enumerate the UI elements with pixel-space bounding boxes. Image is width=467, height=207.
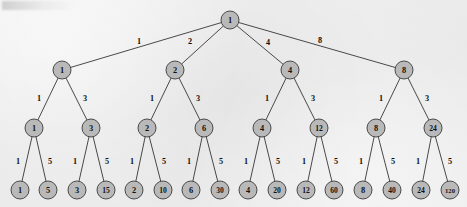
- tree-node-label: 2: [132, 186, 136, 195]
- tree-leaf-node: 2: [125, 181, 143, 199]
- tree-node-label: 20: [273, 186, 281, 195]
- tree-edge-label: 3: [425, 94, 429, 103]
- tree-edge: [378, 137, 390, 182]
- tree-node-label: 30: [216, 186, 224, 195]
- tree-edge-label: 1: [302, 157, 306, 166]
- tree-node-label: 8: [361, 186, 365, 195]
- tree-edge: [149, 137, 161, 182]
- tree-node-label: 5: [46, 186, 50, 195]
- tree-leaf-node: 3: [68, 181, 86, 199]
- tree-leaf-node: 60: [325, 181, 343, 199]
- tree-edge-label: 1: [187, 157, 191, 166]
- tree-edge: [423, 137, 432, 181]
- tree-node-label: 2: [173, 66, 177, 75]
- tree-leaf-node: 30: [211, 181, 229, 199]
- tree-edge-label: 1: [150, 94, 154, 103]
- tree-node: 4: [281, 61, 299, 79]
- tree-edge-labels-group: 1248131313131515151515151515: [16, 36, 452, 166]
- tree-edge-label: 1: [37, 94, 41, 103]
- tree-leaf-node: 4: [239, 181, 257, 199]
- tree-edge-label: 2: [188, 37, 192, 46]
- tree-edge: [136, 137, 145, 181]
- tree-node-label: 12: [302, 186, 310, 195]
- tree-node-label: 3: [89, 124, 93, 133]
- tree-edge: [308, 137, 317, 181]
- tree-node-label: 1: [32, 124, 36, 133]
- tree-edge: [250, 137, 260, 181]
- tree-edge-label: 1: [244, 157, 248, 166]
- tree-edge: [206, 137, 218, 182]
- tree-edge: [79, 137, 89, 181]
- tree-edge-label: 1: [379, 94, 383, 103]
- tree-node-label: 6: [189, 186, 193, 195]
- tree-leaf-node: 20: [268, 181, 286, 199]
- tree-node-label: 1: [60, 66, 64, 75]
- tree-node: 1: [25, 119, 43, 137]
- tree-node-label: 8: [374, 124, 378, 133]
- tree-edge-label: 3: [83, 94, 87, 103]
- tree-node-label: 40: [388, 186, 396, 195]
- tree-edge-label: 3: [196, 94, 200, 103]
- tree-node: 24: [424, 119, 442, 137]
- tree-node-label: 12: [315, 124, 323, 133]
- tree-leaf-node: 15: [97, 181, 115, 199]
- tree-node-label: 10: [159, 186, 167, 195]
- tree-edge-label: 1: [130, 157, 134, 166]
- tree-edge: [71, 23, 222, 68]
- tree-node: 6: [195, 119, 213, 137]
- tree-edge-label: 5: [162, 157, 166, 166]
- tree-node: 4: [253, 119, 271, 137]
- tree-node-label: 2: [145, 124, 149, 133]
- tree-leaf-node: 5: [39, 181, 57, 199]
- tree-node-label: 8: [402, 66, 406, 75]
- tree-node-label: 120: [445, 187, 456, 194]
- tree-leaf-node: 6: [182, 181, 200, 199]
- tree-edge: [239, 22, 396, 67]
- tree-edge-label: 3: [311, 94, 315, 103]
- tree-edge-label: 1: [73, 157, 77, 166]
- tree-leaf-node: 40: [383, 181, 401, 199]
- tree-edge-label: 4: [266, 38, 270, 47]
- tree-edge: [365, 137, 374, 181]
- tree-edge-label: 1: [265, 94, 269, 103]
- tree-edge: [321, 137, 332, 182]
- tree-leaf-node: 8: [354, 181, 372, 199]
- tree-edge: [264, 137, 275, 182]
- tree-edge: [36, 137, 46, 181]
- tree-edge-label: 1: [137, 37, 141, 46]
- tree-edge-label: 5: [448, 157, 452, 166]
- tree-edge: [22, 137, 32, 181]
- tree-diagram-canvas: 1248131313131515151515151515 11248132641…: [0, 0, 467, 207]
- tree-node-label: 3: [75, 186, 79, 195]
- tree-edge-label: 1: [359, 157, 363, 166]
- tree-node-label: 6: [202, 124, 206, 133]
- tree-node-label: 1: [18, 186, 22, 195]
- tree-edge: [93, 137, 104, 182]
- tree-node-label: 24: [429, 124, 437, 133]
- tree-edge-label: 5: [334, 157, 338, 166]
- tree-nodes-group: 1124813264128241531521063042012608402412…: [11, 11, 459, 199]
- tree-edge-label: 8: [318, 36, 322, 45]
- tree-node: 1: [53, 61, 71, 79]
- tree-edge-label: 5: [391, 157, 395, 166]
- tree-leaf-node: 10: [154, 181, 172, 199]
- tree-edge: [237, 26, 283, 64]
- tree-leaf-node: 120: [441, 181, 459, 199]
- factor-tree-figure: 1248131313131515151515151515 11248132641…: [0, 0, 467, 207]
- tree-edge-label: 5: [276, 157, 280, 166]
- tree-leaf-node: 1: [11, 181, 29, 199]
- tree-edge-label: 5: [48, 157, 52, 166]
- tree-edge-label: 1: [16, 157, 20, 166]
- tree-node: 8: [367, 119, 385, 137]
- tree-leaf-node: 12: [297, 181, 315, 199]
- tree-node: 3: [82, 119, 100, 137]
- tree-node-label: 24: [417, 186, 425, 195]
- tree-node: 12: [310, 119, 328, 137]
- tree-edge-label: 5: [219, 157, 223, 166]
- tree-node-label: 15: [102, 186, 110, 195]
- tree-node: 2: [138, 119, 156, 137]
- tree-node-label: 60: [330, 186, 338, 195]
- tree-node: 2: [166, 61, 184, 79]
- tree-node: 8: [395, 61, 413, 79]
- tree-node-label: 1: [228, 16, 232, 25]
